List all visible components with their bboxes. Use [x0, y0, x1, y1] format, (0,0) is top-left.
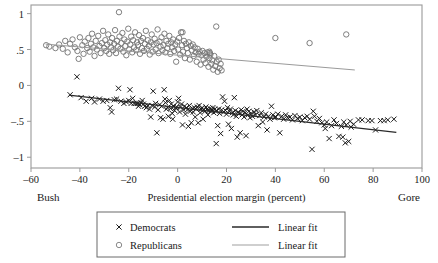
- y-tick-label: .5: [16, 45, 24, 56]
- y-tick-label: –1: [13, 152, 25, 163]
- data-point-democrat: [127, 87, 132, 92]
- data-point-democrat: [170, 117, 175, 122]
- data-point-democrat: [193, 114, 198, 119]
- data-point-democrat: [264, 127, 269, 132]
- x-tick-label: –20: [120, 174, 137, 185]
- legend-entry-republicans[interactable]: RepublicansLinear fit: [116, 240, 317, 251]
- x-tick-label: –40: [71, 174, 88, 185]
- data-point-republican: [124, 53, 129, 58]
- data-point-democrat: [180, 122, 185, 127]
- chart-svg: –60–40–200204060801001.50–.5–1Presidenti…: [0, 0, 438, 263]
- x-tick-label: 60: [319, 174, 330, 185]
- data-point-republican: [173, 59, 178, 64]
- data-point-democrat: [151, 89, 156, 94]
- legend-fit-label: Linear fit: [278, 240, 317, 251]
- data-point-democrat: [226, 122, 231, 127]
- legend-series-label: Republicans: [130, 240, 182, 251]
- data-point-democrat: [260, 119, 265, 124]
- x-tick-label: 40: [270, 174, 281, 185]
- data-point-republican: [273, 35, 278, 40]
- x-tick-label: –60: [22, 174, 39, 185]
- data-point-republican: [43, 43, 48, 48]
- data-point-republican: [155, 27, 160, 32]
- data-point-democrat: [243, 133, 248, 138]
- legend: DemocratsLinear fitRepublicansLinear fit: [97, 212, 345, 257]
- data-point-democrat: [74, 74, 79, 79]
- data-point-republican: [214, 24, 219, 29]
- data-point-republican: [77, 35, 82, 40]
- data-point-republican: [60, 46, 65, 51]
- data-point-republican: [116, 9, 121, 14]
- data-point-democrat: [162, 87, 167, 92]
- data-point-democrat: [189, 120, 194, 125]
- data-point-democrat: [235, 135, 240, 140]
- data-point-republican: [307, 40, 312, 45]
- data-point-democrat: [369, 118, 374, 123]
- legend-series-label: Democrats: [130, 222, 175, 233]
- data-point-republican: [98, 50, 103, 55]
- x-tick-label: 0: [175, 174, 180, 185]
- data-point-republican: [76, 56, 81, 61]
- data-point-democrat: [218, 131, 223, 136]
- data-point-republican: [120, 30, 125, 35]
- data-point-democrat: [311, 109, 316, 114]
- data-point-democrat: [340, 135, 345, 140]
- regression-lines-layer: [46, 44, 397, 132]
- data-point-democrat: [307, 117, 312, 122]
- data-point-democrat: [391, 117, 396, 122]
- scatter-chart: –60–40–200204060801001.50–.5–1Presidenti…: [0, 0, 438, 263]
- y-tick-label: 1: [19, 9, 24, 20]
- data-point-democrat: [269, 104, 274, 109]
- data-point-democrat: [109, 109, 114, 114]
- x-tick-label: 100: [414, 174, 430, 185]
- data-points-layer: [43, 9, 396, 151]
- data-point-republican: [126, 26, 131, 31]
- data-point-democrat: [229, 126, 234, 131]
- data-point-democrat: [327, 136, 332, 141]
- axes-layer: [27, 5, 422, 172]
- data-point-republican: [93, 38, 98, 43]
- x-axis-title: Presidential election margin (percent): [147, 192, 306, 204]
- data-point-democrat: [232, 95, 237, 100]
- data-point-democrat: [351, 122, 356, 127]
- y-tick-label: 0: [19, 80, 24, 91]
- series-republicans: [43, 9, 348, 74]
- data-point-democrat: [196, 120, 201, 125]
- data-point-democrat: [108, 105, 113, 110]
- data-point-democrat: [148, 114, 153, 119]
- data-point-democrat: [176, 96, 181, 101]
- legend-entry-democrats[interactable]: DemocratsLinear fit: [116, 222, 317, 233]
- data-point-republican: [112, 27, 117, 32]
- pole-label-bush: Bush: [37, 191, 60, 203]
- legend-marker-x-icon: [116, 224, 121, 229]
- data-point-republican: [143, 28, 148, 33]
- data-point-democrat: [323, 126, 328, 131]
- data-point-democrat: [256, 123, 261, 128]
- data-point-republican: [96, 33, 101, 38]
- data-point-democrat: [84, 99, 89, 104]
- x-tick-label: 80: [368, 174, 379, 185]
- data-point-democrat: [200, 117, 205, 122]
- data-point-republican: [92, 53, 97, 58]
- pole-label-gore: Gore: [398, 191, 420, 203]
- legend-fit-label: Linear fit: [278, 222, 317, 233]
- data-point-democrat: [309, 147, 314, 152]
- data-point-democrat: [385, 117, 390, 122]
- data-point-democrat: [214, 141, 219, 146]
- series-democrats: [68, 74, 397, 152]
- data-point-democrat: [166, 114, 171, 119]
- data-point-democrat: [215, 123, 220, 128]
- data-point-democrat: [360, 117, 365, 122]
- data-point-democrat: [277, 130, 282, 135]
- data-point-republican: [344, 32, 349, 37]
- data-point-democrat: [92, 99, 97, 104]
- data-point-democrat: [312, 114, 317, 119]
- data-point-democrat: [238, 130, 243, 135]
- data-point-democrat: [154, 130, 159, 135]
- data-point-democrat: [116, 86, 121, 91]
- data-point-republican: [89, 31, 94, 36]
- data-point-republican: [65, 50, 70, 55]
- data-point-republican: [70, 37, 75, 42]
- y-tick-label: –.5: [10, 116, 24, 127]
- data-point-democrat: [160, 117, 165, 122]
